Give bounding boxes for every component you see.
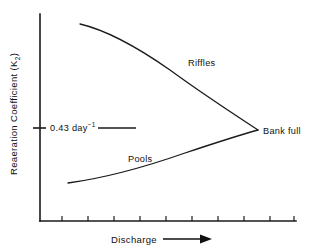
y-axis-title-main: Reaeration Coefficient: [8, 73, 19, 175]
reference-value-label: 0.43 day−1: [50, 121, 96, 133]
chart-figure: 0.43 day−1 Riffles Pools Bank full Disch…: [0, 0, 313, 251]
bank-full-label: Bank full: [263, 126, 301, 136]
y-axis-title-paren-close: ): [8, 53, 19, 57]
riffles-curve: [80, 24, 258, 130]
pools-label: Pools: [128, 154, 153, 164]
x-axis-title: Discharge: [111, 234, 157, 245]
reference-value-exponent: −1: [88, 121, 96, 128]
riffles-label: Riffles: [188, 58, 216, 68]
x-axis-arrow-icon: [163, 235, 212, 244]
pools-curve: [68, 130, 258, 183]
reference-value-text: 0.43 day: [50, 123, 88, 133]
y-axis-title-paren-open: (K: [8, 60, 19, 71]
y-axis-title: Reaeration Coefficient (K2): [8, 53, 21, 175]
chart-canvas: 0.43 day−1 Riffles Pools Bank full Disch…: [0, 0, 313, 251]
